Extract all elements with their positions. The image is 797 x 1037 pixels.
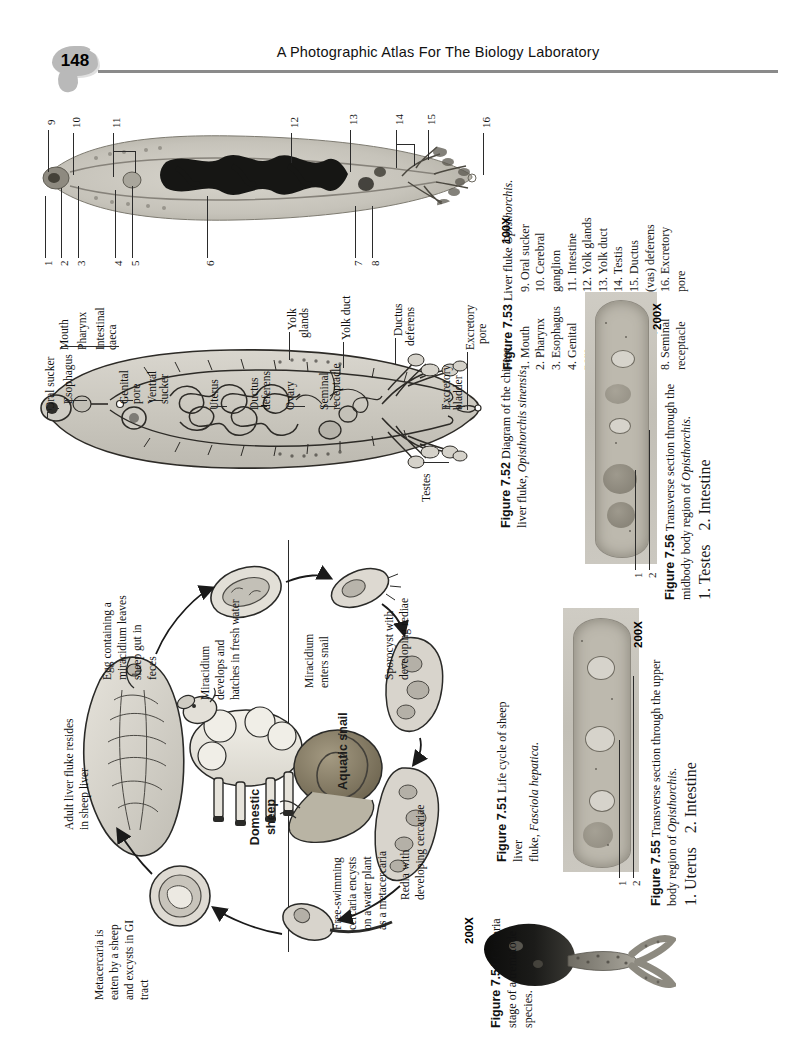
fig751-stage-label-redia: Redia with developing cercariae (398, 760, 428, 900)
fig752-label-sem-rec-a: Seminal (318, 372, 330, 410)
fig753-callout-13: 13 (347, 114, 359, 125)
page-header: 148 A Photographic Atlas For The Biology… (0, 38, 797, 84)
fig751-stage-text-egg: Egg containing a miracidium leaves sheep… (100, 570, 160, 680)
fig752-label-genital-pore-a: Genital (118, 370, 130, 404)
fig756-testes-mass-2 (607, 502, 635, 528)
fig753-photomicrograph (36, 128, 484, 224)
fig755-speck (611, 698, 613, 700)
fig752-caption-line1: Diagram of the chinese (499, 347, 513, 459)
fig753-leader-11d (113, 151, 114, 177)
fig756-label-2: 2. Intestine (696, 459, 714, 530)
host-domestic-sheep (175, 688, 302, 826)
fig753-leader-1 (45, 196, 46, 258)
fig753-leader-14d (396, 144, 397, 168)
fig753-callout-10: 10 (70, 117, 82, 128)
page-number-badge: 148 (52, 46, 98, 76)
fig753-callout-3: 3 (75, 261, 87, 267)
fig751-host-sheep-text: Domestic sheep (248, 782, 279, 852)
fig756-vacuole-2 (609, 418, 631, 434)
fig753-callout-12: 12 (288, 117, 300, 128)
fig755-speck (595, 768, 597, 770)
fig753-label-13: 13. Yolk duct (596, 217, 612, 292)
fig752-label-esophagus: Esophagus (62, 354, 74, 404)
fig753-caption-title: Liver fluke (501, 247, 515, 301)
fig752-leader-duct-def-r (395, 338, 396, 364)
fig753-leader-4 (115, 190, 116, 258)
fig753-callout-5: 5 (129, 261, 141, 267)
fig752-caption: Figure 7.52 Diagram of the chinese liver… (498, 318, 531, 528)
fig755-uterus-lumen-1 (587, 656, 615, 680)
fig754-caption-line1: Cercaria (489, 918, 503, 959)
fig756-leader-2 (649, 430, 650, 570)
fig755-magnification: 200X (632, 621, 644, 648)
running-head: A Photographic Atlas For The Biology Lab… (98, 44, 778, 60)
fig753-label-10: 10. Cerebral (533, 217, 549, 292)
fig752-label-duct-def-r-a: Ductus (392, 303, 404, 336)
fig752-label-exc-pore-a: Excretory (464, 305, 476, 350)
fig751-caption-species: Fasciola hepatica. (527, 742, 541, 831)
fig756-testes-mass-1 (603, 464, 637, 494)
fig752-leader-caeca (97, 346, 119, 347)
fig753-leader-2 (61, 188, 62, 258)
fig751-stage-text-metacercaria: Metacercaria is eaten by a sheep and exc… (92, 880, 152, 1000)
fig753-leader-14b (396, 144, 414, 145)
fig751-stage-text-cercaria: Free-swimming cercaria encysts on a wate… (330, 810, 390, 930)
fig753-caption-species: Opisthorchis. (501, 180, 515, 245)
fig752-leader-genital-pore (121, 400, 133, 401)
fig753-label-12: 12. Yolk glands (580, 217, 596, 292)
fig753-label-10b: ganglion (549, 217, 565, 292)
fig755-caption: Figure 7.55 Transverse section through t… (648, 630, 700, 906)
fig752-label-oral-sucker: Oral sucker (44, 357, 56, 410)
fig753-callout-6: 6 (204, 261, 216, 267)
fig753-leader-14a (396, 130, 397, 144)
fig752-label-exc-bladder-a: Excretory (440, 365, 452, 410)
stage-adult-fluke (84, 657, 184, 856)
fig751-host-snail-text: Aquatic snail (336, 690, 352, 790)
fig755-label-1: 1. Uterus (682, 847, 700, 906)
fig753-leader-14c (414, 144, 415, 166)
fig751-stage-text-miracidium-enters: Miracidium enters snail (302, 578, 332, 688)
fig752-fluke-drawing (30, 330, 490, 490)
fig751-stage-label-sporocyst: Sporocyst with developing rediae (382, 550, 412, 680)
fig754-caption-number: Figure 7.54 (489, 962, 503, 1028)
fig755-caption-line2: body region of (665, 832, 679, 906)
fig752-caption-species: Opisthorchis sinensis. (515, 367, 529, 473)
fig752-label-duct-def-r-b: deferens (404, 307, 416, 346)
fig753-callout-15: 15 (425, 114, 437, 125)
fig751-stage-label-miracidium-dev: Miracidium develops and hatches in fresh… (198, 550, 243, 700)
fig753-leader-5 (132, 186, 133, 258)
fig753-leader-6 (207, 196, 208, 258)
fig756-caption: Figure 7.56 Transverse section through t… (662, 376, 714, 600)
fig753-leader-12 (291, 133, 292, 163)
fig751-caption: Figure 7.51 Life cycle of sheep liver fl… (494, 682, 542, 862)
page-number: 148 (52, 46, 98, 76)
fig755-callout-2: 2 (630, 881, 642, 887)
stage-metacercaria (150, 866, 210, 926)
fig753-callout-14: 14 (393, 114, 405, 125)
fig753-callout-7: 7 (352, 261, 364, 267)
fig753-leader-8 (372, 206, 373, 258)
fig756-speck (605, 322, 607, 324)
fig752-leader-ventral-sucker (149, 400, 163, 401)
fig752-label-caeca-a: Intestinal (94, 307, 106, 350)
fig751-stage-text-redia: Redia with developing cercariae (398, 760, 428, 900)
fig751-caption-number: Figure 7.51 (495, 796, 509, 862)
fig753-callout-2: 2 (58, 261, 70, 267)
fig753-leader-11b (113, 151, 135, 152)
fig754-caption: Figure 7.54 Cercaria stage of a trematod… (488, 912, 536, 1028)
fig753-label-11: 11. Intestine (565, 217, 581, 292)
fig751-stage-label-adult: Adult liver fluke resides in sheep liver (62, 680, 92, 830)
fig751-stage-text-sporocyst: Sporocyst with developing rediae (382, 550, 412, 680)
fig755-caption-number: Figure 7.55 (649, 840, 663, 906)
fig755-label-2: 2. Intestine (682, 762, 700, 833)
fig755-caption-line1: Transverse section through the upper (649, 660, 663, 838)
fig753-callout-11: 11 (110, 117, 122, 128)
fig752-label-sem-rec-b: receptacle (330, 363, 342, 410)
fig752-leader-esophagus (65, 400, 87, 401)
fig753-label-16: 16. Excretory (658, 217, 674, 292)
fig756-caption-number: Figure 7.56 (663, 534, 677, 600)
fig753-specimen-drawing (36, 128, 484, 224)
fig753-callout-4: 4 (112, 261, 124, 267)
fig752-label-yolk-glands-b: glands (298, 308, 310, 338)
fig752-leader-yolk-duct (343, 342, 344, 368)
